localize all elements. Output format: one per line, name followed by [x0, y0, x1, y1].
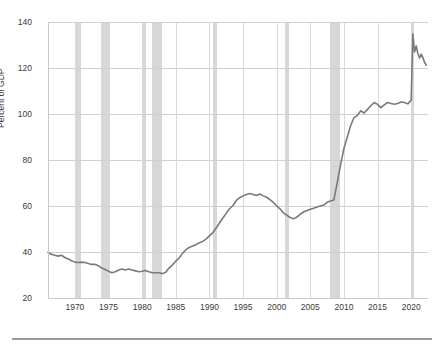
y-axis-tick-label: 80 [23, 155, 32, 165]
x-axis-line [48, 298, 428, 299]
y-axis-tick-label: 60 [23, 201, 32, 211]
series-line [48, 34, 426, 274]
x-axis-tick-label: 1995 [234, 302, 253, 312]
y-axis-tick-label: 20 [23, 293, 32, 303]
y-axis-tick-label: 100 [18, 109, 32, 119]
x-axis-tick-label: 2015 [368, 302, 387, 312]
plot-area [48, 22, 428, 298]
x-axis-tick-label: 2020 [402, 302, 421, 312]
y-axis-tick-labels: 20406080100120140 [0, 22, 42, 298]
debt-to-gdp-line-series [48, 22, 428, 298]
x-axis-tick-label: 2005 [301, 302, 320, 312]
chart-figure: Percent of GDP 20406080100120140 1970197… [0, 0, 445, 347]
y-axis-tick-label: 140 [18, 17, 32, 27]
x-axis-tick-label: 1970 [65, 302, 84, 312]
x-axis-tick-label: 2010 [334, 302, 353, 312]
footer-divider [12, 338, 432, 340]
x-axis-tick-label: 2000 [267, 302, 286, 312]
x-axis-tick-label: 1975 [99, 302, 118, 312]
x-axis-tick-labels: 1970197519801985199019952000200520102015… [48, 302, 428, 318]
plot-container: Percent of GDP 20406080100120140 1970197… [0, 0, 445, 330]
x-axis-tick-label: 1980 [133, 302, 152, 312]
x-axis-tick-label: 1990 [200, 302, 219, 312]
y-axis-tick-label: 40 [23, 247, 32, 257]
y-axis-line [48, 22, 49, 299]
y-axis-tick-label: 120 [18, 63, 32, 73]
x-axis-tick-label: 1985 [166, 302, 185, 312]
